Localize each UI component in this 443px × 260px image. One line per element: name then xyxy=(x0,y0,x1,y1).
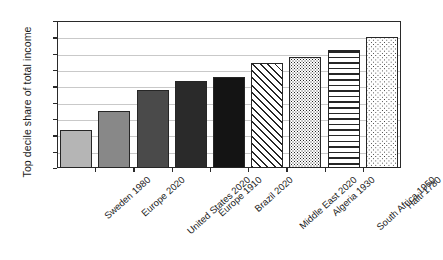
x-axis-tick-mark xyxy=(325,168,326,172)
x-axis-tick-mark xyxy=(286,168,287,172)
bar xyxy=(289,57,321,168)
x-axis-tick-mark xyxy=(133,168,134,172)
bar xyxy=(366,37,398,168)
x-axis-tick-mark xyxy=(363,168,364,172)
bar-series xyxy=(57,21,401,168)
bar xyxy=(60,130,92,168)
x-axis-tick-mark xyxy=(210,168,211,172)
x-axis-category-label: United States 2020 xyxy=(184,174,251,236)
x-axis-tick-mark xyxy=(172,168,173,172)
bar xyxy=(98,111,130,168)
bar xyxy=(251,63,283,168)
y-axis-tick-mark xyxy=(53,168,57,169)
bar xyxy=(328,50,360,168)
x-axis-tick-mark xyxy=(248,168,249,172)
bar xyxy=(175,81,207,168)
y-axis-title: Top decile share of total income xyxy=(21,17,33,187)
bar xyxy=(137,90,169,168)
x-axis-tick-mark xyxy=(95,168,96,172)
bar xyxy=(213,77,245,168)
